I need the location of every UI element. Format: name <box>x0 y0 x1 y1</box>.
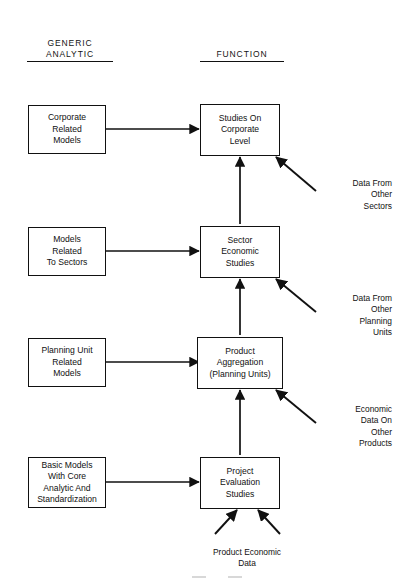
node-basic-models-core-analytic[interactable]: Basic Models With Core Analytic And Stan… <box>28 457 106 508</box>
node-product-aggregation-label: Product Aggregation (Planning Units) <box>209 346 270 380</box>
node-sector-economic-studies-label: Sector Economic Studies <box>221 235 259 269</box>
node-project-evaluation-studies[interactable]: Project Evaluation Studies <box>200 457 280 509</box>
diagram-canvas: GENERIC ANALYTIC FUNCTION Corporate Re <box>0 0 395 579</box>
node-models-related-to-sectors-label: Models Related To Sectors <box>47 234 88 268</box>
node-basic-models-core-analytic-label: Basic Models With Core Analytic And Stan… <box>37 460 97 506</box>
node-planning-unit-related-models[interactable]: Planning Unit Related Models <box>28 338 106 387</box>
node-sector-economic-studies[interactable]: Sector Economic Studies <box>200 226 280 278</box>
label-data-from-other-planning-units-text: Data From Other Planning Units <box>352 293 392 337</box>
label-economic-data-on-other-products: Economic Data On Other Products <box>313 393 392 449</box>
node-models-related-to-sectors[interactable]: Models Related To Sectors <box>28 227 106 276</box>
label-data-from-other-sectors-text: Data From Other Sectors <box>352 178 392 210</box>
node-studies-on-corporate-level[interactable]: Studies On Corporate Level <box>200 104 280 156</box>
edge-other-planning-units-to-sector-studies <box>276 279 316 312</box>
label-data-from-other-planning-units: Data From Other Planning Units <box>313 282 392 338</box>
label-product-economic-data: Product Economic Data <box>182 536 312 570</box>
edge-other-products-to-product-aggregation <box>276 390 316 423</box>
label-economic-data-on-other-products-text: Economic Data On Other Products <box>355 404 392 448</box>
label-data-from-other-sectors: Data From Other Sectors <box>318 167 392 212</box>
edge-other-sectors-to-corporate-studies <box>276 157 316 191</box>
node-corporate-related-models-label: Corporate Related Models <box>48 112 86 146</box>
node-product-aggregation[interactable]: Product Aggregation (Planning Units) <box>197 337 283 389</box>
edge-product-economic-data-right-to-project-evaluation <box>258 510 280 534</box>
node-studies-on-corporate-level-label: Studies On Corporate Level <box>219 113 262 147</box>
node-corporate-related-models[interactable]: Corporate Related Models <box>28 105 106 154</box>
node-planning-unit-related-models-label: Planning Unit Related Models <box>41 345 92 379</box>
node-project-evaluation-studies-label: Project Evaluation Studies <box>220 466 260 500</box>
edge-product-economic-data-left-to-project-evaluation <box>215 510 237 534</box>
label-product-economic-data-text: Product Economic Data <box>213 547 281 568</box>
